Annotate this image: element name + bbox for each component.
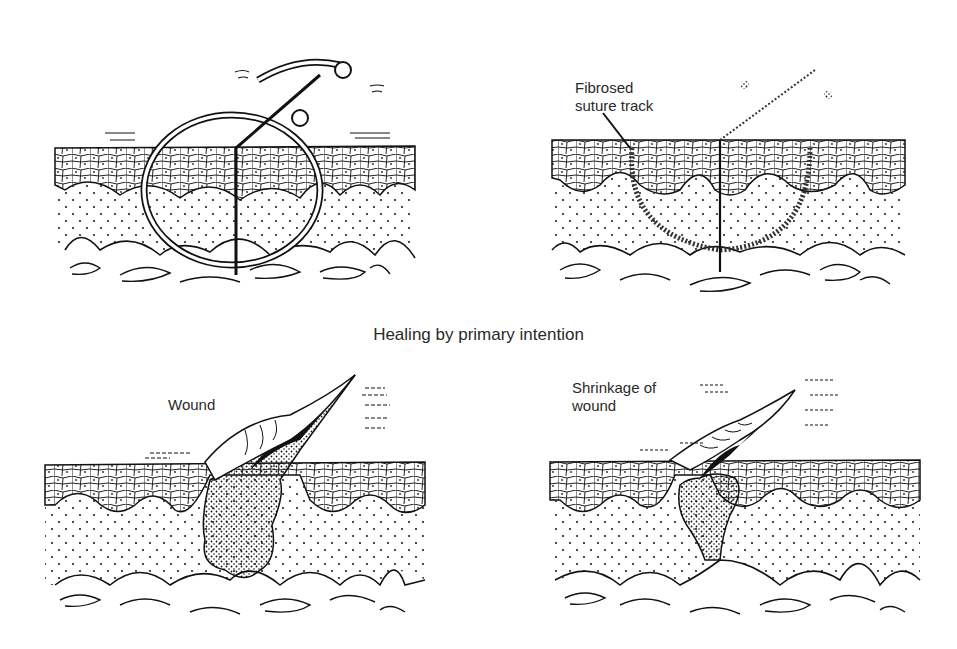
label-fibrosed-suture-track: Fibrosed suture track (575, 79, 653, 115)
fat-layer (60, 595, 405, 614)
knot-icon (292, 110, 308, 126)
panel-shrinking-wound (550, 380, 920, 614)
fat-layer (560, 264, 890, 291)
panel-open-wound (45, 375, 425, 614)
label-shrinkage-of-wound: Shrinkage of wound (572, 379, 656, 415)
knot-icon (335, 62, 351, 78)
scab-flap (670, 390, 795, 470)
panel-sutured-wound (55, 62, 415, 282)
label-wound: Wound (168, 396, 215, 414)
fat-layer (565, 593, 905, 614)
figure-caption: Healing by primary intention (0, 325, 957, 345)
